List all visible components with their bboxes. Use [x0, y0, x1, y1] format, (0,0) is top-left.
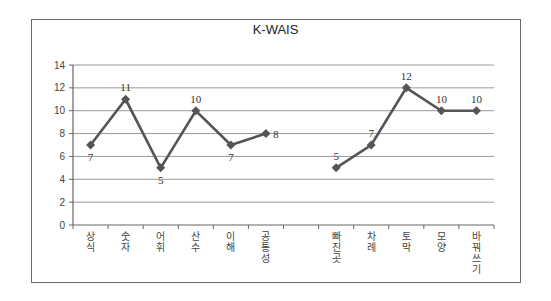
x-category-label: 상 [86, 231, 95, 242]
x-category-label: 바 [472, 231, 481, 242]
x-category-label: 통 [261, 242, 270, 253]
line-chart-plot: 02468101214 상식숫자어휘산수이해공통성빠진곳차례토막모양바꿔쓰기 7… [0, 0, 551, 301]
x-category-label: 산 [191, 231, 200, 242]
y-tick-label: 0 [59, 220, 65, 231]
diamond-marker [472, 106, 481, 115]
x-category-label: 기 [472, 264, 481, 275]
x-category-label: 성 [261, 253, 270, 264]
x-category-label: 숫 [121, 231, 130, 242]
x-category-label: 곳 [332, 253, 341, 264]
x-category-label: 례 [367, 242, 376, 253]
data-label: 10 [436, 93, 448, 105]
data-label: 7 [368, 127, 374, 139]
data-label: 7 [88, 151, 94, 163]
x-category-label: 꿔 [472, 242, 481, 253]
data-label: 11 [120, 81, 131, 93]
x-category-label: 어 [156, 231, 165, 242]
y-tick-label: 2 [59, 197, 65, 208]
data-label: 10 [471, 93, 483, 105]
x-category-label: 해 [226, 241, 235, 253]
y-tick-label: 12 [54, 82, 66, 93]
x-category-label: 빠 [332, 231, 341, 242]
data-labels: 7115107857121010 [88, 70, 483, 186]
series-line [336, 88, 476, 168]
x-category-label: 토 [402, 231, 411, 242]
x-category-label: 공 [261, 231, 270, 242]
x-category-label: 식 [86, 242, 95, 253]
x-axis-category-labels: 상식숫자어휘산수이해공통성빠진곳차례토막모양바꿔쓰기 [86, 231, 481, 275]
x-category-label: 휘 [156, 242, 165, 253]
x-category-label: 자 [121, 242, 130, 253]
axes [69, 65, 494, 229]
data-label: 7 [228, 151, 234, 163]
x-category-label: 양 [437, 242, 446, 253]
y-tick-label: 10 [54, 105, 66, 116]
x-category-label: 수 [191, 242, 200, 253]
data-label: 8 [273, 128, 279, 140]
data-series [86, 83, 481, 172]
x-category-label: 이 [226, 231, 235, 242]
y-tick-label: 4 [59, 174, 65, 185]
data-label: 12 [401, 70, 412, 82]
x-category-label: 진 [332, 242, 341, 253]
data-label: 5 [333, 150, 339, 162]
y-tick-label: 8 [59, 128, 65, 139]
y-tick-label: 6 [59, 151, 65, 162]
x-category-label: 차 [367, 231, 376, 242]
diamond-marker [261, 129, 270, 138]
x-category-label: 막 [402, 242, 411, 253]
gridlines [73, 65, 494, 202]
x-category-label: 쓰 [472, 253, 481, 264]
y-axis-tick-labels: 02468101214 [54, 60, 66, 231]
data-label: 5 [158, 174, 164, 186]
data-label: 10 [190, 93, 202, 105]
x-category-label: 모 [437, 231, 446, 242]
y-tick-label: 14 [54, 60, 66, 71]
